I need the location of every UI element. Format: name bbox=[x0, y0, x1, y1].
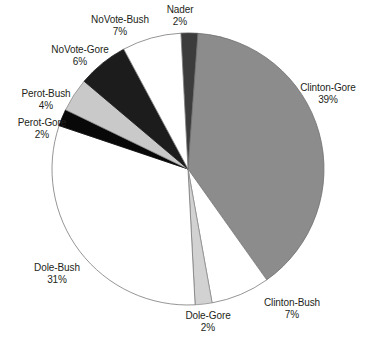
pie-label-novote-bush-name: NoVote-Bush bbox=[70, 14, 170, 26]
pie-label-novote-gore-value: 6% bbox=[30, 56, 130, 68]
pie-label-dole-gore-name: Dole-Gore bbox=[176, 310, 240, 322]
pie-label-clinton-gore-value: 39% bbox=[285, 94, 371, 106]
pie-label-perot-bush: Perot-Bush 4% bbox=[0, 88, 92, 111]
pie-label-dole-gore: Dole-Gore 2% bbox=[176, 310, 240, 333]
pie-label-perot-gore-name: Perot-Gore bbox=[0, 117, 84, 129]
pie-label-dole-gore-value: 2% bbox=[176, 322, 240, 334]
pie-label-clinton-gore-name: Clinton-Gore bbox=[285, 82, 371, 94]
pie-label-dole-bush-value: 31% bbox=[17, 274, 97, 286]
pie-label-novote-gore: NoVote-Gore 6% bbox=[30, 44, 130, 67]
pie-label-perot-gore: Perot-Gore 2% bbox=[0, 117, 84, 140]
pie-label-clinton-bush-name: Clinton-Bush bbox=[246, 297, 338, 309]
pie-chart: Nader 2% Clinton-Gore 39% Clinton-Bush 7… bbox=[0, 0, 374, 346]
pie-label-novote-bush: NoVote-Bush 7% bbox=[70, 14, 170, 37]
pie-label-clinton-bush-value: 7% bbox=[246, 309, 338, 321]
pie-label-novote-bush-value: 7% bbox=[70, 26, 170, 38]
pie-label-clinton-gore: Clinton-Gore 39% bbox=[285, 82, 371, 105]
pie-label-dole-bush-name: Dole-Bush bbox=[17, 262, 97, 274]
pie-label-clinton-bush: Clinton-Bush 7% bbox=[246, 297, 338, 320]
pie-label-perot-gore-value: 2% bbox=[0, 129, 84, 141]
pie-label-perot-bush-name: Perot-Bush bbox=[0, 88, 92, 100]
pie-label-dole-bush: Dole-Bush 31% bbox=[17, 262, 97, 285]
pie-label-perot-bush-value: 4% bbox=[0, 100, 92, 112]
pie-label-novote-gore-name: NoVote-Gore bbox=[30, 44, 130, 56]
